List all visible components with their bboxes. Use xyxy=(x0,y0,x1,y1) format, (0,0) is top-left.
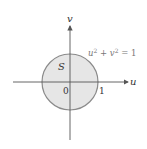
u-axis-label: u xyxy=(130,76,136,87)
circle-equation: u2 + v2 = 1 xyxy=(88,47,136,59)
eq-rhs: = 1 xyxy=(118,48,136,58)
origin-label: 0 xyxy=(63,86,69,96)
eq-plus: + xyxy=(97,48,110,58)
unit-disk-diagram: v u S 0 1 u2 + v2 = 1 xyxy=(0,0,147,149)
region-label: S xyxy=(58,61,65,72)
tick-label-1: 1 xyxy=(99,86,105,96)
v-axis-label: v xyxy=(67,13,73,24)
